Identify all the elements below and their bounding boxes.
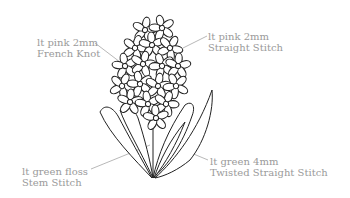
label-twisted-straight-stitch-line1: lt green 4mm [210, 156, 328, 167]
label-twisted-straight-stitch-line2: Twisted Straight Stitch [210, 167, 328, 178]
label-straight-stitch-line2: Straight Stitch [208, 42, 283, 53]
label-straight-stitch: lt pink 2mm Straight Stitch [208, 31, 283, 53]
label-stem-stitch-line2: Stem Stitch [22, 177, 88, 188]
label-twisted-straight-stitch: lt green 4mm Twisted Straight Stitch [210, 156, 328, 178]
label-french-knot: lt pink 2mm French Knot [37, 37, 100, 59]
label-french-knot-line1: lt pink 2mm [37, 37, 100, 48]
embroidery-diagram: lt pink 2mm French Knot lt pink 2mm Stra… [0, 0, 350, 198]
label-straight-stitch-line1: lt pink 2mm [208, 31, 283, 42]
label-stem-stitch-line1: lt green floss [22, 166, 88, 177]
label-stem-stitch: lt green floss Stem Stitch [22, 166, 88, 188]
leader-straight-stitch [183, 36, 207, 48]
label-french-knot-line2: French Knot [37, 48, 100, 59]
